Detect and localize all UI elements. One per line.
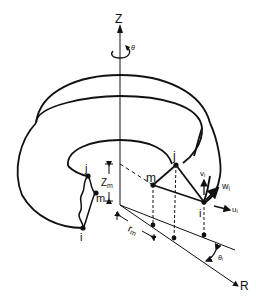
proj-j bbox=[172, 236, 177, 241]
node-label-i-left: i bbox=[80, 232, 82, 243]
w-label: wi bbox=[222, 182, 230, 192]
node-label-j: j bbox=[173, 150, 176, 162]
zm-label: Zm bbox=[101, 178, 113, 189]
node-i-left bbox=[80, 225, 85, 230]
theta-label: θ bbox=[131, 44, 135, 51]
node-label-i: i bbox=[199, 208, 201, 219]
node-i bbox=[201, 199, 206, 204]
projection-lines bbox=[153, 165, 204, 238]
u-label: ui bbox=[232, 206, 238, 215]
torus-body bbox=[18, 75, 221, 228]
node-label-m-left: m bbox=[96, 193, 105, 204]
triangle-element bbox=[153, 165, 204, 202]
z-axis-label: Z bbox=[115, 13, 122, 25]
proj-m bbox=[151, 223, 156, 228]
u-arrow bbox=[214, 206, 230, 210]
radial-plane bbox=[120, 164, 238, 286]
v-label: vi bbox=[200, 170, 205, 179]
node-j bbox=[173, 162, 178, 167]
node-j-left bbox=[85, 173, 90, 178]
r-axis-label: R bbox=[240, 280, 249, 292]
node-label-m: m bbox=[146, 172, 156, 184]
theta-i-label: θi bbox=[218, 254, 223, 263]
theta-i-arc bbox=[206, 250, 216, 261]
proj-i bbox=[202, 233, 207, 238]
node-label-j-left: j bbox=[85, 163, 87, 174]
